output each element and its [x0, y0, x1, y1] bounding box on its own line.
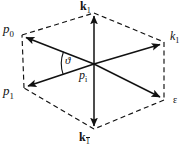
- label-k1-bottom-vector: k1: [79, 131, 90, 147]
- arrow-to-p0: [26, 38, 94, 65]
- arrow-to-k1-right: [94, 45, 160, 65]
- label-k1-bot-base: k: [79, 130, 86, 144]
- label-k1-top-base: k: [80, 0, 87, 13]
- label-pi-center: pi: [79, 69, 87, 85]
- label-p1-subscript: 1: [10, 91, 14, 101]
- label-k1-top-vector: k1: [80, 0, 91, 16]
- label-epsilon: ε: [173, 95, 177, 105]
- label-theta-angle: ϑ: [65, 55, 70, 66]
- angle-arc-theta: [61, 52, 63, 75]
- label-p0-subscript: 0: [10, 29, 14, 39]
- label-k1-top-subscript: 1: [87, 6, 91, 15]
- label-theta-text: ϑ: [65, 54, 70, 66]
- vector-diagram: [0, 0, 188, 150]
- label-k1-bot-subscript-overbar: 1: [86, 137, 90, 146]
- label-pi-subscript: i: [85, 75, 87, 84]
- label-k1-right: k1: [170, 30, 179, 46]
- arrow-to-epsilon: [94, 64, 160, 97]
- label-p1: p1: [3, 84, 14, 100]
- label-k1-right-subscript: 1: [175, 36, 179, 45]
- figure-canvas: p0 k1 k1 p1 pi ε k1 ϑ: [0, 0, 188, 150]
- label-p0: p0: [3, 22, 14, 38]
- dashed-hexagon-outline: [22, 13, 164, 129]
- label-epsilon-text: ε: [173, 94, 177, 105]
